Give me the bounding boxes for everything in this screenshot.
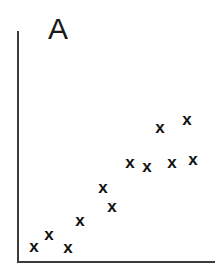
- data-point: x: [72, 213, 88, 229]
- data-point: x: [185, 152, 201, 168]
- data-point: x: [179, 112, 195, 128]
- data-point: x: [41, 227, 57, 243]
- data-point: x: [164, 155, 180, 171]
- data-point: x: [139, 159, 155, 175]
- data-point: x: [26, 239, 42, 255]
- data-point: x: [104, 199, 120, 215]
- data-point: x: [95, 180, 111, 196]
- data-point: x: [60, 240, 76, 256]
- data-point: x: [122, 155, 138, 171]
- scatter-plot-figure: A xxxxxxxxxxxx: [0, 0, 223, 270]
- data-point-layer: xxxxxxxxxxxx: [0, 0, 223, 270]
- data-point: x: [152, 120, 168, 136]
